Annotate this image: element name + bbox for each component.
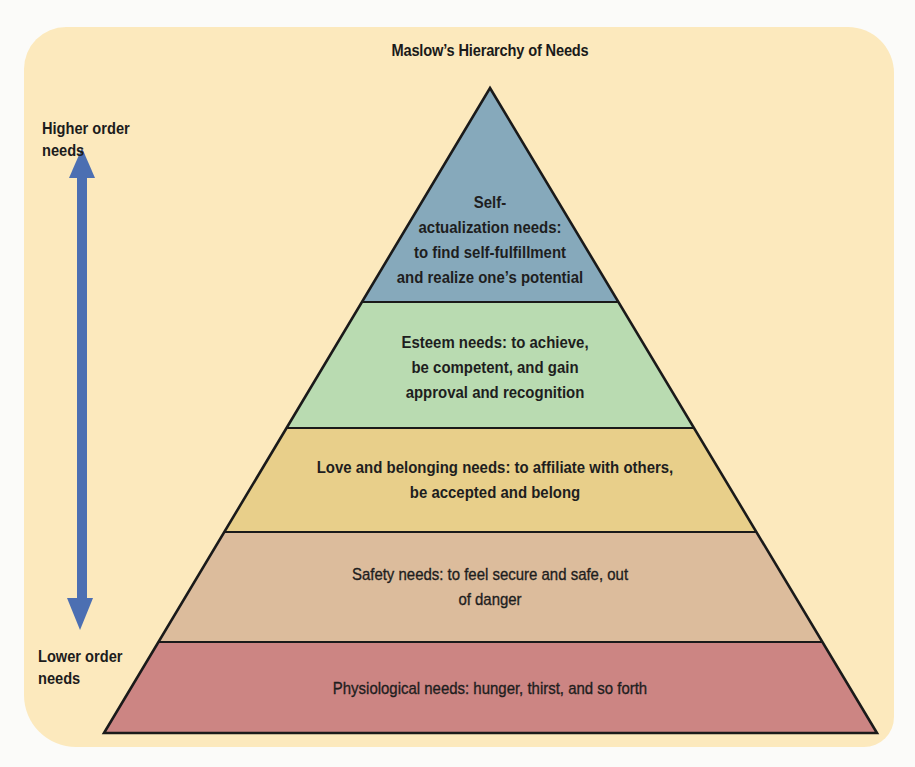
tier-line: Physiological needs: hunger, thirst, and… bbox=[235, 676, 745, 701]
tier-self-actualization-label: Self- actualization needs: to find self-… bbox=[358, 190, 622, 290]
tier-line: approval and recognition bbox=[350, 380, 640, 405]
tier-line: and realize one’s potential bbox=[358, 265, 622, 290]
diagram-title: Maslow’s Hierarchy of Needs bbox=[69, 41, 912, 61]
tier-line: of danger bbox=[270, 587, 710, 612]
tier-line: be accepted and belong bbox=[279, 480, 710, 505]
tier-love-belonging-label: Love and belonging needs: to affiliate w… bbox=[279, 455, 710, 505]
tier-safety-label: Safety needs: to feel secure and safe, o… bbox=[270, 562, 710, 612]
tier-line: Safety needs: to feel secure and safe, o… bbox=[270, 562, 710, 587]
double-headed-vertical-arrow-icon bbox=[67, 148, 95, 630]
lower-order-line1: Lower order bbox=[38, 646, 122, 668]
lower-order-line2: needs bbox=[38, 668, 122, 690]
tier-line: to find self-fulfillment bbox=[358, 240, 622, 265]
tier-esteem-label: Esteem needs: to achieve, be competent, … bbox=[350, 330, 640, 405]
tier-physiological-label: Physiological needs: hunger, thirst, and… bbox=[235, 676, 745, 701]
lower-order-needs-label: Lower order needs bbox=[38, 646, 122, 690]
tier-line: Love and belonging needs: to affiliate w… bbox=[279, 455, 710, 480]
tier-line: actualization needs: bbox=[358, 215, 622, 240]
higher-order-line2: needs bbox=[42, 140, 130, 162]
tier-line: Esteem needs: to achieve, bbox=[350, 330, 640, 355]
tier-line: Self- bbox=[358, 190, 622, 215]
higher-order-needs-label: Higher order needs bbox=[42, 118, 130, 162]
tier-line: be competent, and gain bbox=[350, 355, 640, 380]
higher-order-line1: Higher order bbox=[42, 118, 130, 140]
